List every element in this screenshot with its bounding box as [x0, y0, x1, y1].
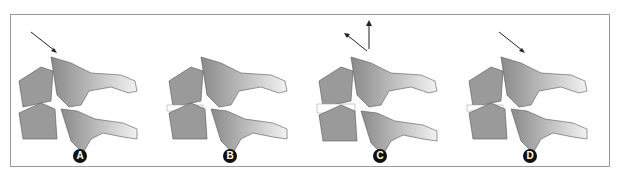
panel-label-badge: D: [523, 149, 537, 163]
arrow-icon: [344, 33, 367, 51]
vertebrae-illustration: [161, 15, 311, 166]
vertebrae-illustration: [461, 15, 611, 166]
vertebrae-illustration: [11, 15, 161, 166]
arrow-icon: [499, 32, 525, 53]
panel-b: B: [161, 15, 311, 166]
arrow-icon: [366, 20, 372, 49]
vertebrae-illustration: [311, 15, 461, 166]
panel-label-badge: C: [373, 149, 387, 163]
figure-frame: A B C: [10, 14, 610, 167]
panel-label-badge: B: [223, 149, 237, 163]
panel-d: D: [461, 15, 611, 166]
panel-a: A: [11, 15, 161, 166]
panel-label-badge: A: [73, 149, 87, 163]
arrow-icon: [31, 32, 57, 53]
panel-c: C: [311, 15, 461, 166]
